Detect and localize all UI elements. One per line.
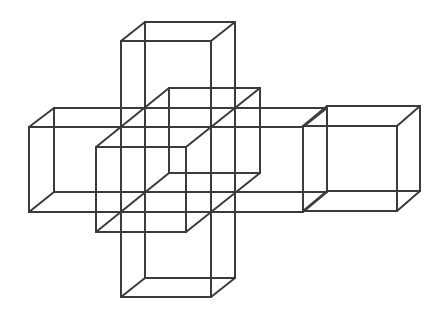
depth-edge (96, 173, 169, 232)
depth-edge (303, 191, 327, 211)
depth-edge (186, 173, 260, 232)
depth-edge (397, 191, 420, 211)
depth-edge (121, 22, 145, 41)
depth-edge (121, 278, 145, 297)
vertical-column-box (121, 22, 235, 297)
depth-edge (397, 106, 420, 126)
depth-edge (211, 22, 235, 41)
wireframe-svg (0, 0, 445, 319)
depth-edge (211, 278, 235, 297)
depth-edge (96, 88, 169, 147)
wireframe-boxes-diagram (0, 0, 445, 319)
depth-edge (186, 88, 260, 147)
horizontal-bar-box (29, 108, 327, 212)
depth-edge (29, 192, 54, 212)
right-end-cube (303, 106, 420, 211)
depth-edge (29, 108, 54, 127)
